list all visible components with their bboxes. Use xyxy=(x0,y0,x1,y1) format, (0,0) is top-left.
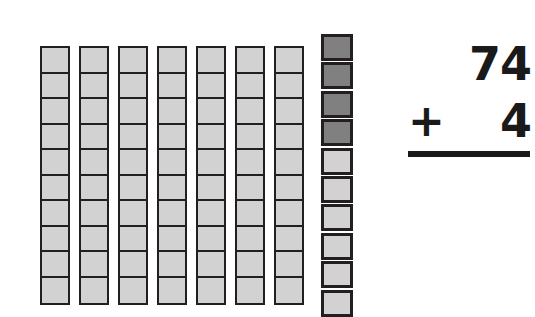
ten-rod-unit xyxy=(237,227,263,253)
ten-rod-unit xyxy=(120,278,146,304)
ten-rod-unit xyxy=(81,176,107,202)
ten-rod-5[interactable] xyxy=(196,46,226,305)
ten-rod-7[interactable] xyxy=(274,46,304,305)
ten-rod-unit xyxy=(81,48,107,74)
ten-rod-unit xyxy=(276,227,302,253)
base-ten-blocks-area xyxy=(0,0,380,317)
addend-top: 74 xyxy=(469,41,531,87)
ten-rod-unit xyxy=(198,278,224,304)
ten-rod-unit xyxy=(276,150,302,176)
ten-rod-unit xyxy=(120,99,146,125)
ten-rod-unit xyxy=(237,48,263,74)
ten-rod-unit xyxy=(276,252,302,278)
ten-rod-4[interactable] xyxy=(157,46,187,305)
ten-rod-unit xyxy=(237,150,263,176)
ones-cube-filled[interactable] xyxy=(321,34,353,61)
ten-rod-unit xyxy=(81,252,107,278)
ten-rod-unit xyxy=(42,48,68,74)
ten-rod-unit xyxy=(276,48,302,74)
ten-rod-unit xyxy=(42,99,68,125)
ten-rod-unit xyxy=(198,227,224,253)
plus-operator-icon: + xyxy=(408,99,445,143)
ten-rod-unit xyxy=(159,125,185,151)
ten-rod-unit xyxy=(159,48,185,74)
ones-cube-empty[interactable] xyxy=(321,261,353,288)
ten-rod-3[interactable] xyxy=(118,46,148,305)
ten-rod-unit xyxy=(120,74,146,100)
addend-top-row: 74 xyxy=(400,38,535,90)
equation-rule-line xyxy=(408,151,530,157)
ten-rod-unit xyxy=(81,150,107,176)
ten-rod-unit xyxy=(237,99,263,125)
ten-rod-unit xyxy=(198,176,224,202)
ten-rod-unit xyxy=(120,150,146,176)
ten-rod-unit xyxy=(276,99,302,125)
ten-rod-unit xyxy=(81,74,107,100)
addend-bottom: 4 xyxy=(500,98,531,144)
ones-cube-filled[interactable] xyxy=(321,91,353,118)
ten-rod-unit xyxy=(81,278,107,304)
ten-rod-unit xyxy=(237,125,263,151)
ones-cube-empty[interactable] xyxy=(321,176,353,203)
ones-cube-empty[interactable] xyxy=(321,204,353,231)
ten-rod-unit xyxy=(120,227,146,253)
ten-rod-unit xyxy=(276,278,302,304)
ten-rod-unit xyxy=(198,99,224,125)
ten-rod-unit xyxy=(159,278,185,304)
ten-rod-unit xyxy=(42,227,68,253)
ten-rod-unit xyxy=(81,227,107,253)
ten-rod-unit xyxy=(198,201,224,227)
ten-rod-unit xyxy=(276,125,302,151)
ones-column xyxy=(321,34,353,317)
ten-rod-unit xyxy=(159,150,185,176)
ten-rod-unit xyxy=(42,74,68,100)
ten-rod-unit xyxy=(237,201,263,227)
ten-rod-unit xyxy=(159,99,185,125)
ten-rod-unit xyxy=(159,74,185,100)
ten-rod-unit xyxy=(237,74,263,100)
ten-rod-unit xyxy=(198,48,224,74)
ten-rod-unit xyxy=(42,252,68,278)
ten-rod-unit xyxy=(120,48,146,74)
ten-rod-unit xyxy=(159,176,185,202)
ten-rod-unit xyxy=(120,176,146,202)
ten-rod-unit xyxy=(120,125,146,151)
ten-rod-unit xyxy=(276,74,302,100)
ten-rod-unit xyxy=(159,201,185,227)
ten-rod-unit xyxy=(198,125,224,151)
ten-rod-unit xyxy=(42,278,68,304)
ten-rod-1[interactable] xyxy=(40,46,70,305)
worksheet-page: 74 + 4 xyxy=(0,0,535,317)
ten-rod-unit xyxy=(276,201,302,227)
ten-rod-unit xyxy=(159,227,185,253)
ten-rod-unit xyxy=(42,150,68,176)
ten-rod-2[interactable] xyxy=(79,46,109,305)
ten-rod-unit xyxy=(237,278,263,304)
ten-rod-unit xyxy=(237,176,263,202)
ones-cube-empty[interactable] xyxy=(321,233,353,260)
ten-rod-unit xyxy=(120,201,146,227)
ten-rod-unit xyxy=(120,252,146,278)
ten-rod-unit xyxy=(237,252,263,278)
addend-bottom-row: + 4 xyxy=(400,95,535,147)
ten-rod-unit xyxy=(81,201,107,227)
ten-rod-unit xyxy=(42,176,68,202)
ones-cube-filled[interactable] xyxy=(321,119,353,146)
ten-rod-unit xyxy=(81,99,107,125)
ten-rod-unit xyxy=(42,125,68,151)
ones-cube-empty[interactable] xyxy=(321,148,353,175)
ten-rod-unit xyxy=(198,252,224,278)
ones-cube-empty[interactable] xyxy=(321,290,353,317)
ten-rod-6[interactable] xyxy=(235,46,265,305)
ten-rod-unit xyxy=(198,150,224,176)
addition-problem: 74 + 4 xyxy=(400,38,535,168)
ten-rod-unit xyxy=(42,201,68,227)
ten-rod-unit xyxy=(81,125,107,151)
ten-rod-unit xyxy=(276,176,302,202)
ten-rod-unit xyxy=(198,74,224,100)
ones-cube-filled[interactable] xyxy=(321,62,353,89)
ten-rod-unit xyxy=(159,252,185,278)
